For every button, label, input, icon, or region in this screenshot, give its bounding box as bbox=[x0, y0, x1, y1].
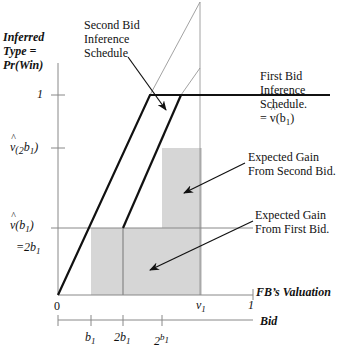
y-axis-label-line1: Inferred bbox=[3, 30, 44, 44]
bid-tick-label-2b1-sq: 2b1 bbox=[154, 330, 169, 348]
expected-gain-first-bid-region bbox=[91, 228, 201, 295]
second-bid-label-line3: Schedule bbox=[84, 46, 128, 60]
y-tick-label-1: 1 bbox=[37, 87, 43, 101]
gain-first-label-line2: From First Bid. bbox=[255, 222, 329, 236]
first-schedule-extension bbox=[150, 2, 200, 95]
x-axis-label: FB’s Valuation bbox=[256, 285, 331, 299]
y-axis-label-line3: Pr(Win) bbox=[3, 58, 43, 72]
x-tick-label-origin: 0 bbox=[54, 299, 60, 313]
first-bid-label-line4: = ^v(b1) bbox=[260, 111, 294, 129]
gain-first-label-line1: Expected Gain bbox=[255, 208, 326, 222]
second-bid-label-line1: Second Bid bbox=[84, 18, 140, 32]
x-tick-label-v1: v1 bbox=[196, 298, 206, 316]
x-tick-label-one: 1 bbox=[248, 298, 254, 312]
bid-tick-label-2b1: 2b1 bbox=[114, 330, 131, 348]
second-bid-label-line2: Inference bbox=[84, 32, 129, 46]
y-tick-label-vb: ^v(b1) bbox=[10, 218, 34, 236]
y-tick-label-eq2b: =2b1 bbox=[16, 240, 41, 258]
gain-second-label-line1: Expected Gain bbox=[248, 150, 319, 164]
second-schedule-extension bbox=[181, 68, 200, 95]
first-bid-label-line2: Inference bbox=[260, 83, 305, 97]
bid-tick-label-b1: b1 bbox=[85, 330, 96, 348]
bid-axis-label: Bid bbox=[260, 314, 277, 328]
first-bid-label-line1: First Bid bbox=[260, 69, 302, 83]
gain-second-label-line2: From Second Bid. bbox=[248, 164, 336, 178]
y-tick-label-v2b: ^v(2b1) bbox=[10, 140, 38, 158]
y-axis-label-line2: Type = bbox=[3, 44, 36, 58]
first-bid-label-line3: Schedule. bbox=[260, 97, 307, 111]
